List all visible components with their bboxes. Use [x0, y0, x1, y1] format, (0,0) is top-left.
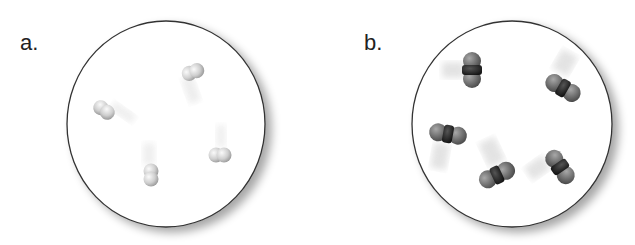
- diagram-canvas: [0, 0, 635, 245]
- container-b: [412, 21, 612, 227]
- container-a: [67, 21, 265, 227]
